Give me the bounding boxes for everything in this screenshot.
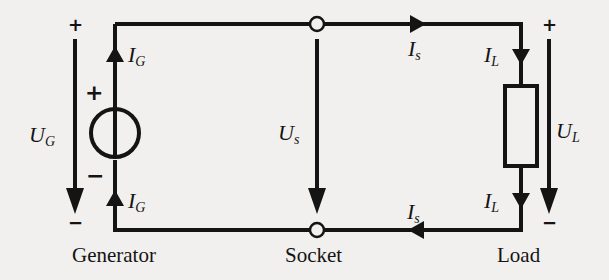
il-top-arrow-icon xyxy=(512,49,530,65)
ig-top-label: IG xyxy=(128,44,145,66)
generator-minus-sign: − xyxy=(86,165,104,187)
is-top-arrow-icon xyxy=(410,15,426,33)
us-arrowhead-icon xyxy=(308,188,326,214)
ul-minus-sign: − xyxy=(542,214,557,232)
is-bottom-label: Is xyxy=(407,201,420,223)
ul-label: UL xyxy=(556,120,580,142)
generator-label: Generator xyxy=(72,245,156,266)
circuit-diagram xyxy=(0,0,609,280)
ug-label: UG xyxy=(29,124,55,146)
ig-top-arrow-icon xyxy=(106,46,124,62)
il-top-label: IL xyxy=(484,44,499,66)
ug-minus-sign: − xyxy=(68,214,83,232)
ug-arrowhead-icon xyxy=(66,188,84,214)
il-bottom-label: IL xyxy=(484,190,499,212)
ul-plus-sign: + xyxy=(542,16,557,34)
ul-arrowhead-icon xyxy=(540,188,558,214)
load-resistor-icon xyxy=(505,86,537,166)
socket-top-terminal-icon xyxy=(310,17,324,31)
us-label: Us xyxy=(278,122,299,144)
load-label: Load xyxy=(497,245,540,266)
ig-bottom-arrow-icon xyxy=(106,190,124,206)
il-bottom-arrow-icon xyxy=(512,193,530,209)
generator-plus-sign: + xyxy=(85,82,103,104)
ug-plus-sign: + xyxy=(68,16,83,34)
is-top-label: Is xyxy=(408,38,421,60)
ig-bottom-label: IG xyxy=(128,190,145,212)
socket-bottom-terminal-icon xyxy=(310,223,324,237)
socket-label: Socket xyxy=(285,245,342,266)
